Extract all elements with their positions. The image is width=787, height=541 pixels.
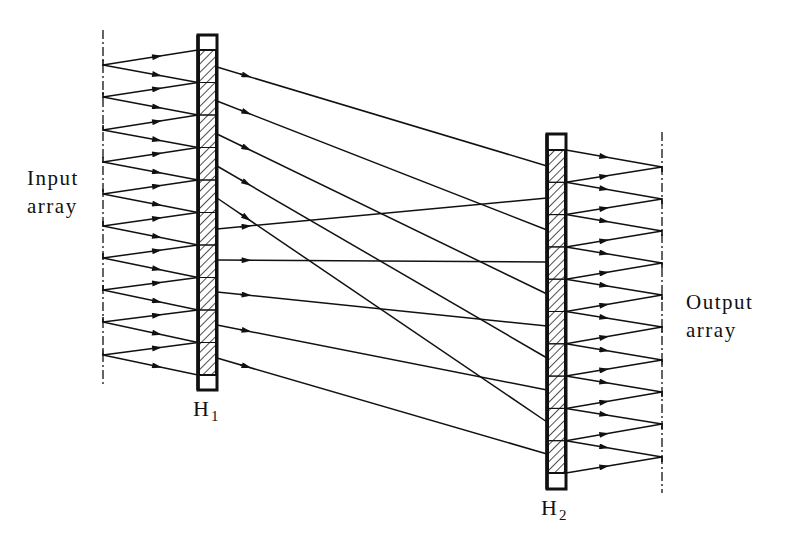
h1-segment	[200, 343, 216, 376]
output-ray	[566, 327, 662, 344]
input-ray	[103, 322, 198, 343]
h1-segment	[200, 278, 216, 311]
output-ray	[566, 344, 662, 360]
output-ray	[566, 263, 662, 279]
shuffle-ray	[217, 358, 547, 454]
input-ray	[103, 310, 198, 322]
input-ray	[103, 194, 198, 213]
shuffle-interconnect-rays	[217, 67, 547, 454]
output-ray	[566, 199, 662, 215]
input-ray	[103, 290, 198, 310]
input-ray	[103, 83, 198, 98]
h2-label: H2	[541, 495, 566, 523]
input-label-line2: array	[27, 192, 79, 220]
output-ray	[566, 376, 662, 392]
output-ray	[566, 457, 662, 473]
h1-segment	[200, 148, 216, 181]
arrow-head-icon	[240, 74, 247, 76]
h2-label-subscript: 2	[559, 507, 567, 523]
input-ray	[103, 65, 198, 83]
output-ray	[566, 279, 662, 295]
h1-segment	[200, 115, 216, 148]
arrow-head-icon	[240, 330, 247, 331]
output-label-line1: Output	[686, 288, 753, 316]
input-ray	[103, 115, 198, 130]
arrow-head-icon	[240, 179, 247, 183]
output-fan-rays	[566, 150, 662, 473]
h1-label-subscript: 1	[211, 408, 219, 424]
h1-segment	[200, 180, 216, 213]
input-label-line1: Input	[27, 164, 79, 192]
input-ray	[103, 130, 198, 148]
h1-segment	[200, 310, 216, 343]
input-fan-rays	[103, 50, 198, 375]
h1-segment	[200, 213, 216, 246]
hologram-h2	[547, 134, 566, 489]
shuffle-ray	[217, 198, 547, 422]
h2-segment	[549, 247, 565, 279]
h2-segment	[549, 441, 565, 473]
shuffle-ray	[217, 260, 547, 262]
input-array-label: Input array	[27, 164, 79, 220]
output-array-label: Output array	[686, 288, 753, 344]
h1-segment	[200, 50, 216, 83]
h2-segment	[549, 182, 565, 214]
h2-segment	[549, 408, 565, 440]
shuffle-ray	[217, 292, 547, 326]
arrow-head-icon	[240, 110, 247, 113]
input-ray	[103, 148, 198, 163]
output-ray	[566, 150, 662, 167]
output-ray	[566, 182, 662, 199]
shuffle-ray	[217, 101, 547, 230]
arrow-head-icon	[240, 226, 247, 227]
arrow-head-icon	[240, 145, 247, 148]
output-ray	[566, 424, 662, 441]
perfect-shuffle-diagram	[0, 0, 787, 541]
input-ray	[103, 343, 198, 356]
output-ray	[566, 441, 662, 457]
output-ray	[566, 295, 662, 312]
h2-segment	[549, 279, 565, 311]
arrow-head-icon	[240, 214, 247, 218]
h2-segment	[549, 312, 565, 344]
input-ray	[103, 162, 198, 180]
arrow-head-icon	[240, 365, 247, 367]
output-ray	[566, 360, 662, 376]
input-ray	[103, 213, 198, 227]
h2-segment	[549, 215, 565, 247]
h1-label: H1	[193, 396, 218, 424]
output-ray	[566, 312, 662, 328]
input-ray	[103, 245, 198, 258]
h1-label-main: H	[193, 396, 209, 421]
h1-segment	[200, 245, 216, 278]
output-ray	[566, 408, 662, 424]
output-ray	[566, 215, 662, 231]
output-ray	[566, 167, 662, 182]
output-ray	[566, 231, 662, 247]
input-ray	[103, 226, 198, 245]
h2-label-main: H	[541, 495, 557, 520]
arrow-head-icon	[240, 294, 247, 295]
hologram-h1	[198, 35, 217, 390]
input-ray	[103, 355, 198, 375]
shuffle-ray	[217, 67, 547, 166]
input-ray	[103, 278, 198, 291]
output-ray	[566, 392, 662, 408]
input-ray	[103, 50, 198, 65]
h1-segment	[200, 83, 216, 116]
shuffle-ray	[217, 325, 547, 390]
h2-segment	[549, 150, 565, 182]
input-ray	[103, 258, 198, 278]
input-ray	[103, 97, 198, 115]
output-ray	[566, 247, 662, 263]
output-label-line2: array	[686, 316, 753, 344]
shuffle-ray	[217, 198, 547, 229]
input-ray	[103, 180, 198, 194]
h2-segment	[549, 376, 565, 408]
h2-segment	[549, 344, 565, 376]
